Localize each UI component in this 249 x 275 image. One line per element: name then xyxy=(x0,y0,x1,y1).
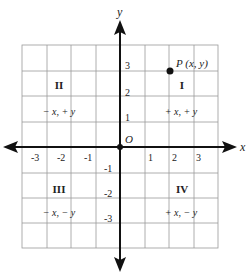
quadrant-ii-label: II xyxy=(55,79,64,91)
x-tick: 1 xyxy=(148,152,153,163)
y-tick: 3 xyxy=(125,60,130,71)
y-tick: 2 xyxy=(125,87,130,98)
y-tick: 1 xyxy=(125,112,130,123)
origin-point xyxy=(117,144,123,150)
quadrant-ii-signs: − x, + y xyxy=(43,106,76,117)
y-tick: -3 xyxy=(104,213,112,224)
y-tick: -2 xyxy=(104,188,112,199)
y-axis-label: y xyxy=(116,5,123,19)
coordinate-plane: y x O -3 -2 -1 1 2 3 3 2 1 -1 -2 -3 P (x… xyxy=(0,0,249,275)
point-p-label: P (x, y) xyxy=(175,57,208,70)
x-tick: -2 xyxy=(57,152,65,163)
x-tick: -3 xyxy=(31,152,39,163)
x-tick: 3 xyxy=(196,152,201,163)
quadrant-iv-signs: + x, − y xyxy=(165,207,198,218)
point-p xyxy=(167,68,174,75)
origin-label: O xyxy=(125,133,133,145)
x-tick: -1 xyxy=(84,152,92,163)
y-tick: -1 xyxy=(104,163,112,174)
quadrant-i-label: I xyxy=(180,79,184,91)
quadrant-iii-label: III xyxy=(53,183,66,195)
x-tick: 2 xyxy=(172,152,177,163)
quadrant-iii-signs: − x, − y xyxy=(43,207,76,218)
quadrant-i-signs: + x, + y xyxy=(165,106,198,117)
quadrant-iv-label: IV xyxy=(176,183,188,195)
x-axis-label: x xyxy=(239,140,246,154)
